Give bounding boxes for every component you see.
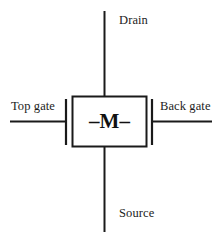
- device-body-box: [73, 97, 147, 147]
- figure-canvas: –M– Drain Source Top gate Back gate: [0, 0, 222, 241]
- back-gate-label: Back gate: [160, 100, 211, 113]
- source-label: Source: [119, 207, 154, 220]
- drain-label: Drain: [119, 14, 148, 27]
- top-gate-label: Top gate: [11, 100, 55, 113]
- circuit-schematic: [0, 0, 222, 241]
